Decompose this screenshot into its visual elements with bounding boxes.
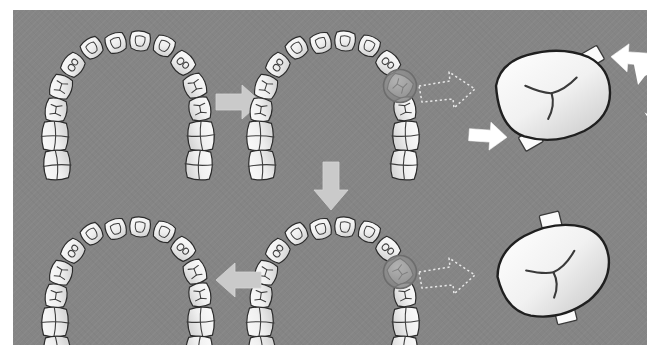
step-4-final-arch (40, 216, 215, 345)
diagram-canvas (13, 10, 647, 345)
arch-teeth-group (40, 216, 215, 345)
rotation-arrow-clockwise (633, 60, 647, 131)
flow-arrow-down-middle (314, 162, 348, 210)
callout-arrow-right-top (419, 72, 475, 108)
arch-teeth-group (245, 30, 420, 181)
magnified-tooth-crown (487, 210, 623, 331)
step-2-arch-rotated-highlighted (245, 30, 420, 181)
figure-root: Orthodontic molar/premolar derotation se… (0, 0, 657, 362)
inset-bottom-magnified-tooth (482, 198, 626, 341)
tooth-highlight-circle (384, 70, 417, 103)
illustration-panel (13, 10, 647, 345)
step-1-initial-arch (40, 30, 215, 181)
inset-top-magnified-tooth (468, 43, 647, 155)
arch-teeth-group (40, 30, 215, 181)
step-3-arch-mid-derotation (245, 216, 420, 345)
callout-arrow-right-bottom (419, 258, 475, 294)
tooth-highlight-circle (384, 256, 417, 289)
force-arrow-lower-left (468, 121, 508, 152)
